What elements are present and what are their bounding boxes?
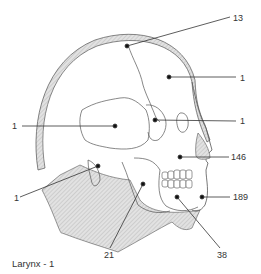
orbit <box>177 113 189 132</box>
label-mastoid: 1 <box>14 193 19 203</box>
skull-diagram <box>0 0 261 274</box>
label-13: 13 <box>233 13 243 23</box>
coronal-suture <box>128 45 160 122</box>
label-21: 21 <box>104 250 114 260</box>
label-sphenoid: 1 <box>240 116 245 126</box>
label-temporal: 1 <box>12 121 17 131</box>
figure-caption: Larynx - 1 <box>12 258 54 269</box>
temporal-outline <box>80 98 149 149</box>
teeth <box>162 170 192 188</box>
label-38: 38 <box>217 250 227 260</box>
label-189: 189 <box>233 192 248 202</box>
scalp <box>36 34 210 170</box>
label-frontal: 1 <box>240 73 245 83</box>
label-146: 146 <box>231 152 246 162</box>
